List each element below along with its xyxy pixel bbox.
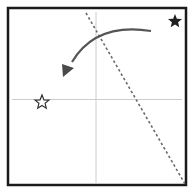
fold-diagram [0, 0, 192, 195]
paper-square [8, 8, 186, 185]
